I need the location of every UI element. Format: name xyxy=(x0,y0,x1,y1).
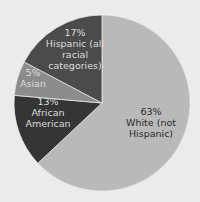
slice-label-white: 63% White (not Hispanic) xyxy=(121,106,181,139)
slice-label-african-american: 13% African American xyxy=(22,96,74,129)
slice-label-hispanic: 17% Hispanic (all racial categories) xyxy=(44,27,106,71)
